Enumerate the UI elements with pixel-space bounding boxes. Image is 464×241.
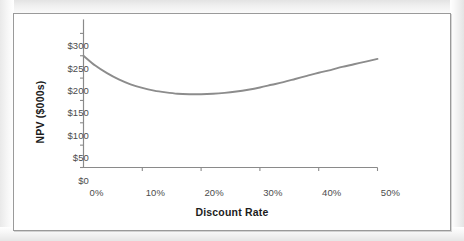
y-tick-label: $0 (37, 175, 89, 186)
x-tick-label: 50% (369, 187, 413, 198)
page-edge-right (450, 0, 464, 241)
x-tick-label: 30% (251, 187, 295, 198)
x-tick-label: 40% (310, 187, 354, 198)
x-tick-label: 10% (133, 187, 177, 198)
axis-lines (83, 19, 378, 167)
npv-curve-line (84, 56, 378, 95)
x-tick-label: 0% (75, 187, 119, 198)
x-tick-label: 20% (192, 187, 236, 198)
y-axis-title: NPV ($000s) (33, 67, 47, 157)
y-axis-title-text: NPV ($000s) (33, 67, 47, 157)
x-axis-title: Discount Rate (0, 206, 464, 218)
y-tick-label: $300 (37, 40, 89, 51)
